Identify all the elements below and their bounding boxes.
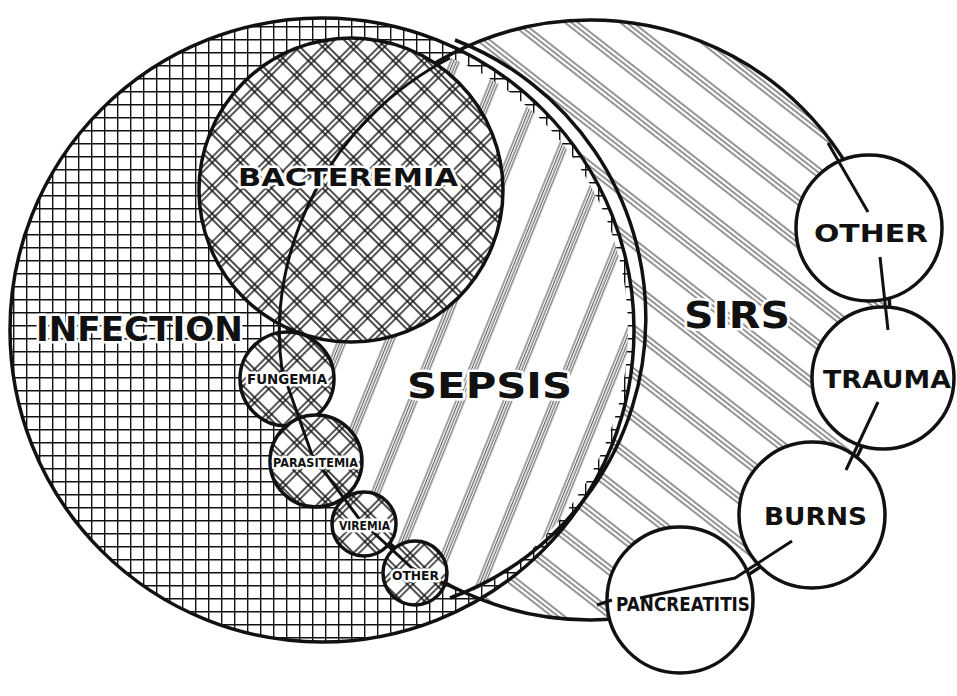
infection-other-label: OTHER (392, 568, 439, 583)
sirs-other-label: OTHER (814, 219, 928, 248)
burns-label: BURNS (764, 502, 867, 531)
fungemia-label: FUNGEMIA (247, 371, 327, 387)
bacteremia-label: BACTEREMIA (238, 163, 459, 192)
sepsis-venn-diagram: INFECTION SIRS SEPSIS BACTEREMIA FUNGEMI… (0, 0, 957, 696)
pancreatitis-label: PANCREATITIS (616, 593, 750, 615)
sepsis-label: SEPSIS (407, 365, 572, 406)
infection-label: INFECTION (36, 309, 243, 349)
trauma-label: TRAUMA (823, 365, 952, 394)
viremia-label: VIREMIA (339, 518, 390, 533)
parasitemia-label: PARASITEMIA (273, 455, 358, 470)
sirs-label: SIRS (684, 293, 790, 337)
